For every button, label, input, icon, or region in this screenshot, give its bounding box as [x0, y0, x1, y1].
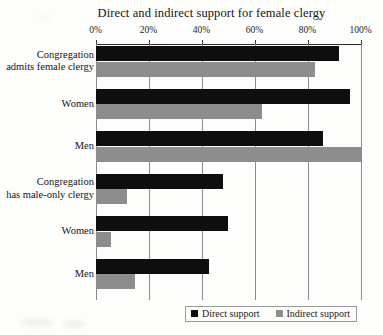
plot-area: 0%20%40%60%80%100% — [96, 44, 361, 300]
x-axis-tick — [202, 40, 203, 44]
bar-direct — [96, 131, 324, 146]
bar-direct — [96, 174, 223, 189]
x-axis-tick — [255, 40, 256, 44]
category-label-line: admits female clergy — [6, 61, 94, 74]
category-label: Women — [62, 98, 94, 111]
category-label-line: Men — [75, 140, 94, 153]
bar-indirect — [96, 232, 112, 247]
legend-swatch-direct-icon — [191, 310, 198, 317]
x-axis-tick — [361, 40, 362, 44]
bar-indirect — [96, 104, 263, 119]
chart-legend: Direct support Indirect support — [185, 306, 357, 322]
category-label: Men — [75, 268, 94, 281]
category-label: Men — [75, 140, 94, 153]
legend-item-direct: Direct support — [191, 308, 260, 319]
category-label-line: Women — [62, 98, 94, 111]
legend-label-direct: Direct support — [202, 308, 260, 319]
x-axis-tick — [96, 40, 97, 44]
bar-indirect — [96, 62, 316, 77]
x-axis-tick — [149, 40, 150, 44]
gridline — [361, 44, 362, 300]
legend-item-indirect: Indirect support — [276, 308, 351, 319]
legend-swatch-indirect-icon — [276, 310, 283, 317]
category-label-line: has male-only clergy — [6, 189, 94, 202]
bar-indirect — [96, 274, 136, 289]
bar-direct — [96, 46, 340, 61]
gridline — [255, 44, 256, 300]
scan-artifact — [63, 320, 85, 328]
x-axis-tick — [308, 40, 309, 44]
chart-title: Direct and indirect support for female c… — [0, 6, 383, 21]
category-label: Congregationadmits female clergy — [6, 49, 94, 74]
scan-artifact — [20, 318, 54, 327]
x-axis-tick-label: 100% — [349, 25, 371, 35]
x-axis-tick-label: 0% — [89, 25, 102, 35]
bar-direct — [96, 259, 210, 274]
bar-direct — [96, 216, 229, 231]
category-label-line: Congregation — [6, 49, 94, 62]
chart-figure: Direct and indirect support for female c… — [0, 0, 383, 335]
gridline — [308, 44, 309, 300]
bar-direct — [96, 89, 350, 104]
bar-indirect — [96, 189, 128, 204]
x-axis-tick-label: 60% — [246, 25, 263, 35]
category-label-line: Women — [62, 225, 94, 238]
legend-label-indirect: Indirect support — [287, 308, 351, 319]
x-axis-tick-label: 40% — [193, 25, 210, 35]
x-axis-tick-label: 20% — [140, 25, 157, 35]
category-label: Congregationhas male-only clergy — [6, 176, 94, 201]
x-axis-tick-label: 80% — [299, 25, 316, 35]
category-label-line: Men — [75, 268, 94, 281]
category-label: Women — [62, 225, 94, 238]
bar-indirect — [96, 147, 361, 162]
category-label-line: Congregation — [6, 176, 94, 189]
